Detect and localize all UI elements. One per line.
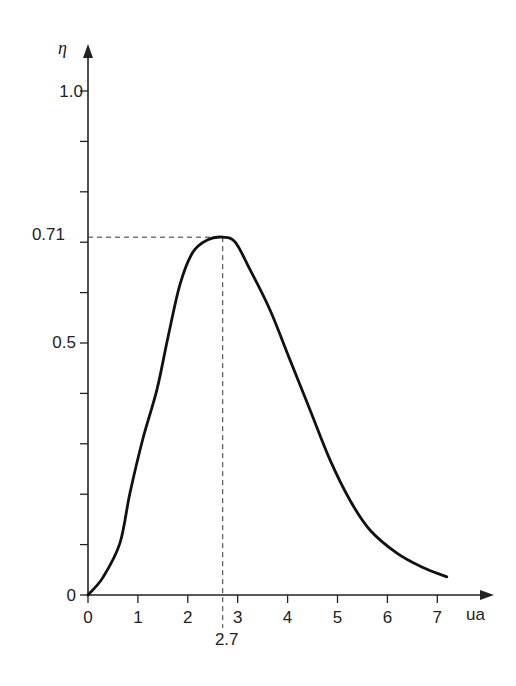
y-tick-label-0-5: 0.5 <box>52 333 76 352</box>
x-tick-label: 1 <box>133 608 142 627</box>
x-tick-label: 2 <box>183 608 192 627</box>
y-tick-label-0: 0 <box>67 586 76 605</box>
x-axis-ticks: 01234567 <box>83 595 442 627</box>
x-tick-label: 0 <box>83 608 92 627</box>
y-axis-arrow-icon <box>83 44 93 58</box>
peak-x-label: 2.7 <box>215 630 239 649</box>
x-tick-label: 4 <box>283 608 292 627</box>
efficiency-curve-chart: 01234567 η ua 1.0 0.71 0.5 0 2.7 <box>0 0 516 686</box>
y-tick-label-0-71: 0.71 <box>32 225 65 244</box>
x-tick-label: 5 <box>333 608 342 627</box>
x-axis-arrow-icon <box>480 590 494 600</box>
efficiency-curve <box>88 237 447 595</box>
x-tick-label: 7 <box>433 608 442 627</box>
x-tick-label: 3 <box>233 608 242 627</box>
y-tick-label-1-0: 1.0 <box>59 82 83 101</box>
y-axis-ticks <box>80 91 88 595</box>
y-axis-title: η <box>58 38 67 58</box>
x-tick-label: 6 <box>383 608 392 627</box>
x-axis-title: ua <box>466 605 485 624</box>
